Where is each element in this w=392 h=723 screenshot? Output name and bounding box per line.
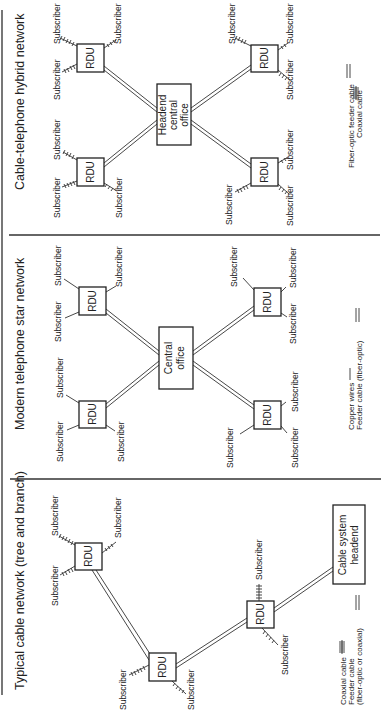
feeder-cable-lines <box>92 567 333 668</box>
panel-title: Typical cable network (tree and branch) <box>13 471 27 690</box>
rdu-node: RDU <box>254 288 281 316</box>
svg-text:Subscriber: Subscriber <box>50 565 60 606</box>
svg-text:Subscriber: Subscriber <box>114 177 124 218</box>
svg-text:Subscriber: Subscriber <box>52 59 62 100</box>
svg-text:Subscriber: Subscriber <box>290 371 300 412</box>
svg-text:RDU: RDU <box>87 290 98 312</box>
svg-text:Subscriber: Subscriber <box>52 119 62 160</box>
svg-text:(fiber-optic or coaxial): (fiber-optic or coaxial) <box>355 628 364 705</box>
svg-text:Subscriber: Subscriber <box>50 495 60 536</box>
svg-text:RDU: RDU <box>83 545 94 567</box>
svg-text:Subscriber: Subscriber <box>225 427 235 468</box>
svg-text:RDU: RDU <box>85 47 96 69</box>
svg-text:RDU: RDU <box>87 403 98 425</box>
svg-text:RDU: RDU <box>259 161 270 183</box>
central-office-label-line-2: office <box>175 346 186 370</box>
svg-text:Subscriber: Subscriber <box>285 59 295 100</box>
rdu-node: RDU <box>254 401 281 429</box>
legend-tree: Coaxial cable Feeder cable (fiber-optic … <box>339 595 364 705</box>
svg-text:Subscriber: Subscriber <box>227 3 237 44</box>
svg-text:Subscriber: Subscriber <box>288 303 298 344</box>
central-office-label-line-1: Central <box>163 342 174 374</box>
panel-tree: Typical cable network (tree and branch) … <box>13 471 365 710</box>
panel-hybrid: Cable-telephone hybrid network Headend <box>13 3 364 226</box>
legend-star: Copper wires Feeder cable (fiber-optic) <box>347 308 364 430</box>
rdu-node: RDU <box>251 158 278 186</box>
svg-text:Subscriber: Subscriber <box>52 177 62 218</box>
panel-title: Cable-telephone hybrid network <box>13 13 27 190</box>
rdu-node: RDU <box>77 44 104 72</box>
headend-label-line-1: Headend <box>157 95 168 136</box>
rdu-node: RDU <box>79 401 106 428</box>
svg-text:Subscriber: Subscriber <box>280 634 290 675</box>
svg-text:RDU: RDU <box>259 47 270 69</box>
svg-text:Feeder cable (fiber-optic): Feeder cable (fiber-optic) <box>355 340 364 430</box>
rdu-node: RDU <box>149 653 176 681</box>
svg-text:Subscriber: Subscriber <box>229 246 239 287</box>
headend-label-line-2: headend <box>349 526 360 565</box>
headend-label-line-3: office <box>179 103 190 127</box>
headend-label-line-1: Cable system <box>337 515 348 576</box>
network-comparison-diagram: Cable-telephone hybrid network Headend <box>0 0 392 723</box>
rdu-node: RDU <box>79 287 106 315</box>
headend-label-line-2: central <box>168 100 179 130</box>
svg-text:Subscriber: Subscriber <box>55 357 65 398</box>
rdu-node: RDU <box>247 601 274 628</box>
svg-text:Subscriber: Subscriber <box>53 245 63 286</box>
svg-text:Subscriber: Subscriber <box>224 184 234 225</box>
svg-text:Subscriber: Subscriber <box>113 3 123 44</box>
svg-text:Subscriber: Subscriber <box>114 246 124 287</box>
rdu-node: RDU <box>75 543 102 570</box>
rdu-node: RDU <box>251 45 278 72</box>
svg-text:RDU: RDU <box>262 404 273 426</box>
panel-title: Modern telephone star network <box>13 257 27 430</box>
panel-star: Modern telephone star network Central of… <box>13 245 364 468</box>
rdu-node: RDU <box>77 158 104 186</box>
svg-text:Subscriber: Subscriber <box>116 421 126 462</box>
svg-text:Subscriber: Subscriber <box>288 247 298 288</box>
svg-text:Subscriber: Subscriber <box>285 129 295 170</box>
svg-text:Subscriber: Subscriber <box>186 669 196 710</box>
svg-text:Subscriber: Subscriber <box>285 3 295 44</box>
svg-text:RDU: RDU <box>262 291 273 313</box>
svg-text:Subscriber: Subscriber <box>285 185 295 226</box>
svg-text:Subscriber: Subscriber <box>52 3 62 44</box>
svg-text:Subscriber: Subscriber <box>113 497 123 538</box>
svg-text:RDU: RDU <box>85 161 96 183</box>
svg-text:Subscriber: Subscriber <box>290 427 300 468</box>
svg-text:Subscriber: Subscriber <box>53 301 63 342</box>
svg-text:Subscriber: Subscriber <box>55 421 65 462</box>
svg-text:RDU: RDU <box>255 603 266 625</box>
svg-text:Subscriber: Subscriber <box>118 669 128 710</box>
svg-text:RDU: RDU <box>157 656 168 678</box>
legend-hybrid: Fiber-optic feeder cable Coaxial cable <box>347 64 364 168</box>
svg-text:Subscriber: Subscriber <box>254 539 264 580</box>
